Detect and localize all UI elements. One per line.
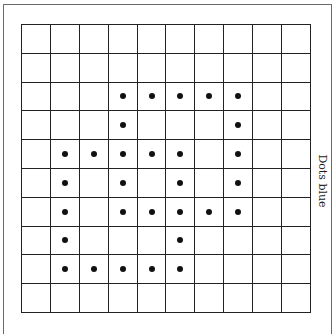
dot-marker [177, 93, 183, 99]
grid-cell [282, 54, 311, 83]
dot-marker [149, 266, 155, 272]
dot-grid [21, 24, 311, 313]
grid-cell [51, 284, 80, 313]
grid-cell [195, 227, 224, 256]
grid-cell [22, 227, 51, 256]
grid-cell [224, 140, 253, 169]
grid-cell [166, 140, 195, 169]
dot-marker [62, 266, 68, 272]
grid-cell [166, 83, 195, 112]
grid-cell [51, 227, 80, 256]
grid-cell [253, 25, 282, 54]
grid-cell [224, 111, 253, 140]
grid-cell [80, 83, 109, 112]
grid-cell [22, 83, 51, 112]
grid-cell [109, 284, 138, 313]
grid-cell [282, 255, 311, 284]
dot-marker [149, 209, 155, 215]
grid-cell [195, 198, 224, 227]
dot-marker [62, 151, 68, 157]
grid-cell [51, 255, 80, 284]
grid-cell [80, 54, 109, 83]
grid-cell [80, 255, 109, 284]
grid-cell [224, 25, 253, 54]
grid-cell [80, 25, 109, 54]
grid-cell [138, 25, 167, 54]
grid-cell [253, 284, 282, 313]
grid-cell [22, 255, 51, 284]
grid-cell [138, 83, 167, 112]
grid-cell [282, 140, 311, 169]
grid-cell [138, 227, 167, 256]
grid-cell [195, 83, 224, 112]
grid-cell [109, 111, 138, 140]
dot-marker [149, 93, 155, 99]
grid-cell [22, 198, 51, 227]
dot-marker [120, 180, 126, 186]
grid-cell [224, 255, 253, 284]
grid-cell [253, 169, 282, 198]
grid-cell [253, 83, 282, 112]
grid-cell [282, 227, 311, 256]
dot-marker [120, 93, 126, 99]
grid-cell [80, 284, 109, 313]
grid-cell [51, 25, 80, 54]
grid-cell [224, 83, 253, 112]
grid-cell [109, 198, 138, 227]
grid-cell [282, 111, 311, 140]
grid-cell [138, 54, 167, 83]
dot-marker [120, 266, 126, 272]
grid-cell [282, 83, 311, 112]
grid-cell [138, 140, 167, 169]
grid-cell [224, 198, 253, 227]
grid-cell [282, 25, 311, 54]
grid-cell [80, 140, 109, 169]
dot-marker [206, 209, 212, 215]
grid-cell [138, 284, 167, 313]
grid-cell [253, 140, 282, 169]
grid-cell [109, 227, 138, 256]
grid-cell [166, 255, 195, 284]
grid-cell [166, 227, 195, 256]
grid-cell [195, 140, 224, 169]
grid-cell [195, 25, 224, 54]
grid-cell [166, 111, 195, 140]
dot-marker [62, 237, 68, 243]
grid-cell [22, 54, 51, 83]
grid-cell [166, 284, 195, 313]
grid-cell [282, 198, 311, 227]
grid-cell [282, 169, 311, 198]
grid-cell [253, 227, 282, 256]
dot-marker [235, 93, 241, 99]
grid-cell [224, 284, 253, 313]
grid-cell [51, 83, 80, 112]
dot-marker [177, 266, 183, 272]
dot-marker [177, 180, 183, 186]
grid-cell [138, 255, 167, 284]
dot-marker [91, 151, 97, 157]
grid-cell [253, 111, 282, 140]
grid-cell [166, 169, 195, 198]
grid-cell [51, 111, 80, 140]
grid-cell [224, 169, 253, 198]
dot-marker [149, 151, 155, 157]
dot-marker [62, 180, 68, 186]
grid-cell [166, 198, 195, 227]
dot-marker [206, 93, 212, 99]
grid-cell [166, 54, 195, 83]
grid-cell [51, 198, 80, 227]
dot-marker [177, 237, 183, 243]
grid-cell [282, 284, 311, 313]
dot-marker [177, 209, 183, 215]
dot-marker [62, 209, 68, 215]
grid-cell [80, 227, 109, 256]
grid-cell [224, 54, 253, 83]
grid-cell [80, 111, 109, 140]
grid-cell [195, 255, 224, 284]
grid-cell [253, 255, 282, 284]
grid-cell [22, 140, 51, 169]
dot-marker [91, 266, 97, 272]
grid-cell [109, 25, 138, 54]
grid-cell [22, 169, 51, 198]
grid-cell [51, 140, 80, 169]
